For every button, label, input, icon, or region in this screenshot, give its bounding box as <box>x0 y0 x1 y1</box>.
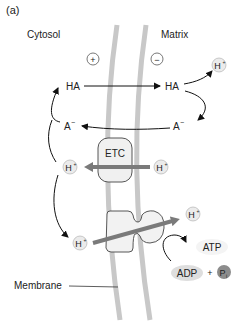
membrane-label: Membrane <box>14 280 62 291</box>
atp-synthesis-arrow <box>163 235 186 261</box>
svg-text:−: − <box>71 119 75 126</box>
cytosol-proton-link <box>49 120 56 162</box>
anion-matrix: A − <box>173 119 184 132</box>
ha-to-anion-arrow <box>185 91 205 120</box>
membrane-leader-line <box>69 286 118 287</box>
svg-text:+: + <box>84 237 87 243</box>
negative-charge-icon: − <box>151 53 163 65</box>
ha-cytosol: HA <box>66 81 80 92</box>
svg-text:ADP: ADP <box>177 268 198 279</box>
etc-label: ETC <box>105 148 125 159</box>
proton-cytosol-bottom: H + <box>73 236 87 250</box>
etc-complex: ETC <box>98 138 132 182</box>
svg-text:H: H <box>214 61 221 71</box>
proton-matrix-mid: H + <box>154 160 168 174</box>
ha-dissociation-arrow <box>184 71 212 84</box>
proton-matrix-top: H + <box>212 58 226 72</box>
ha-matrix: HA <box>165 81 179 92</box>
svg-text:H: H <box>75 239 82 249</box>
svg-text:+: + <box>90 55 95 65</box>
svg-text:−: − <box>180 119 184 126</box>
svg-text:H: H <box>65 163 72 173</box>
inorganic-phosphate: P i <box>217 265 231 279</box>
svg-text:+: + <box>223 59 226 65</box>
matrix-label: Matrix <box>161 29 188 40</box>
svg-text:+: + <box>165 161 168 167</box>
anion-cytosol: A − <box>64 119 75 132</box>
svg-text:A: A <box>173 121 180 132</box>
svg-text:−: − <box>154 55 159 65</box>
svg-text:i: i <box>226 273 227 279</box>
proton-return-arrow <box>54 175 68 237</box>
anion-return-arrow <box>82 126 170 129</box>
proton-matrix-bottom: H + <box>186 207 200 221</box>
svg-text:+: + <box>197 208 200 214</box>
positive-charge-icon: + <box>87 53 99 65</box>
cytosol-label: Cytosol <box>27 29 60 40</box>
svg-text:H: H <box>188 210 195 220</box>
svg-text:A: A <box>64 121 71 132</box>
svg-text:+: + <box>74 161 77 167</box>
adp-label: ADP <box>171 265 203 281</box>
plus-sign: + <box>207 268 212 278</box>
proton-cytosol-mid: H + <box>63 160 77 174</box>
mitochondrial-uncoupling-diagram: (a) Cytosol Matrix + − H + HA HA A − A −… <box>0 0 247 322</box>
svg-text:P: P <box>219 268 225 278</box>
protonation-arrow <box>51 88 60 122</box>
atp-label: ATP <box>196 239 228 255</box>
svg-text:ATP: ATP <box>203 242 222 253</box>
svg-text:H: H <box>156 163 163 173</box>
panel-label: (a) <box>6 4 19 16</box>
